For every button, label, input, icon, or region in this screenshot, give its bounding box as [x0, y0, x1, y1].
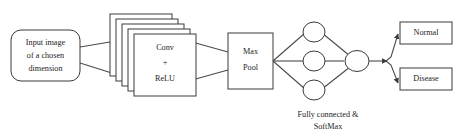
connector-maxpool-to-fc	[273, 33, 305, 89]
cnn-architecture-diagram: Conv + ReLU Input image of a chosen dime…	[0, 0, 459, 138]
fc-hidden-nodes	[303, 22, 325, 100]
input-label-line1: Input image	[26, 38, 66, 47]
max-pool-block[interactable]: Max Pool	[228, 33, 273, 89]
maxpool-label-line2: Pool	[243, 63, 259, 72]
fc-node-1[interactable]	[303, 22, 325, 42]
fc-caption: Fully connected & SoftMax	[298, 110, 360, 131]
disease-label: Disease	[413, 74, 439, 83]
fc-node-3[interactable]	[303, 80, 325, 100]
input-label-line3: dimension	[28, 64, 62, 73]
normal-label: Normal	[413, 28, 439, 37]
fc-caption-line2: SoftMax	[314, 122, 343, 131]
input-label-line2: of a chosen	[27, 51, 64, 60]
conv-relu-block[interactable]: Conv + ReLU	[134, 34, 196, 96]
normal-class-block[interactable]: Normal	[400, 22, 452, 44]
connector-conv-to-maxpool	[192, 42, 228, 80]
conv-label-line1: Conv	[156, 43, 175, 52]
disease-class-block[interactable]: Disease	[400, 68, 452, 90]
connector-split-to-classes	[386, 34, 398, 83]
conv-label-line3: ReLU	[155, 74, 175, 83]
fc-output-node[interactable]	[345, 51, 369, 72]
fc-node-2[interactable]	[303, 51, 325, 71]
diagram-canvas: Conv + ReLU Input image of a chosen dime…	[0, 0, 459, 138]
fc-caption-line1: Fully connected &	[298, 110, 360, 119]
maxpool-label-line1: Max	[243, 47, 258, 56]
input-image-block[interactable]: Input image of a chosen dimension	[11, 30, 80, 81]
conv-label-plus: +	[163, 58, 168, 67]
